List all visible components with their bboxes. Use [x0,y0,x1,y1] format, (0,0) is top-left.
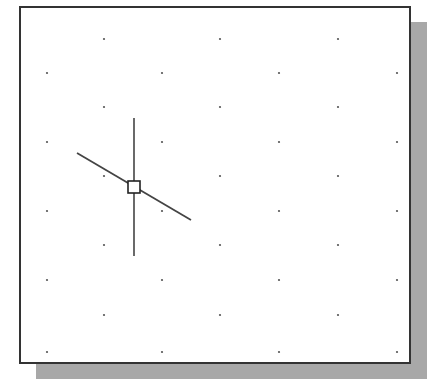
drawing-canvas[interactable] [0,0,434,380]
grid-dot [337,314,339,316]
grid-dot [278,210,280,212]
grid-dot [103,175,105,177]
grid-dot [46,210,48,212]
grid-dot [396,72,398,74]
grid-dot [161,351,163,353]
grid-dot [396,279,398,281]
grid-dot [161,141,163,143]
grid-dot [219,314,221,316]
grid-dot [161,279,163,281]
grid-dot [46,141,48,143]
grid-dot [46,279,48,281]
crosshair-cursor-icon [77,118,191,256]
grid-dot [278,72,280,74]
grid-dot [161,72,163,74]
grid-dot [278,141,280,143]
grid-dot [46,351,48,353]
grid-dot [219,244,221,246]
grid-dot [337,106,339,108]
grid-dot [219,175,221,177]
grid-dot [396,210,398,212]
grid-dots [46,38,398,353]
grid-dot [337,244,339,246]
grid-dot [219,106,221,108]
grid-dot [396,141,398,143]
grid-dot [103,244,105,246]
grid-dot [46,72,48,74]
grid-dot [337,175,339,177]
grid-dot [337,38,339,40]
grid-dot [396,351,398,353]
grid-dot [103,38,105,40]
grid-dot [219,38,221,40]
grid-dot [103,106,105,108]
grid-dot [278,351,280,353]
pickbox-icon [128,181,140,193]
grid-dot [161,210,163,212]
grid-dot [278,279,280,281]
grid-dot [103,314,105,316]
